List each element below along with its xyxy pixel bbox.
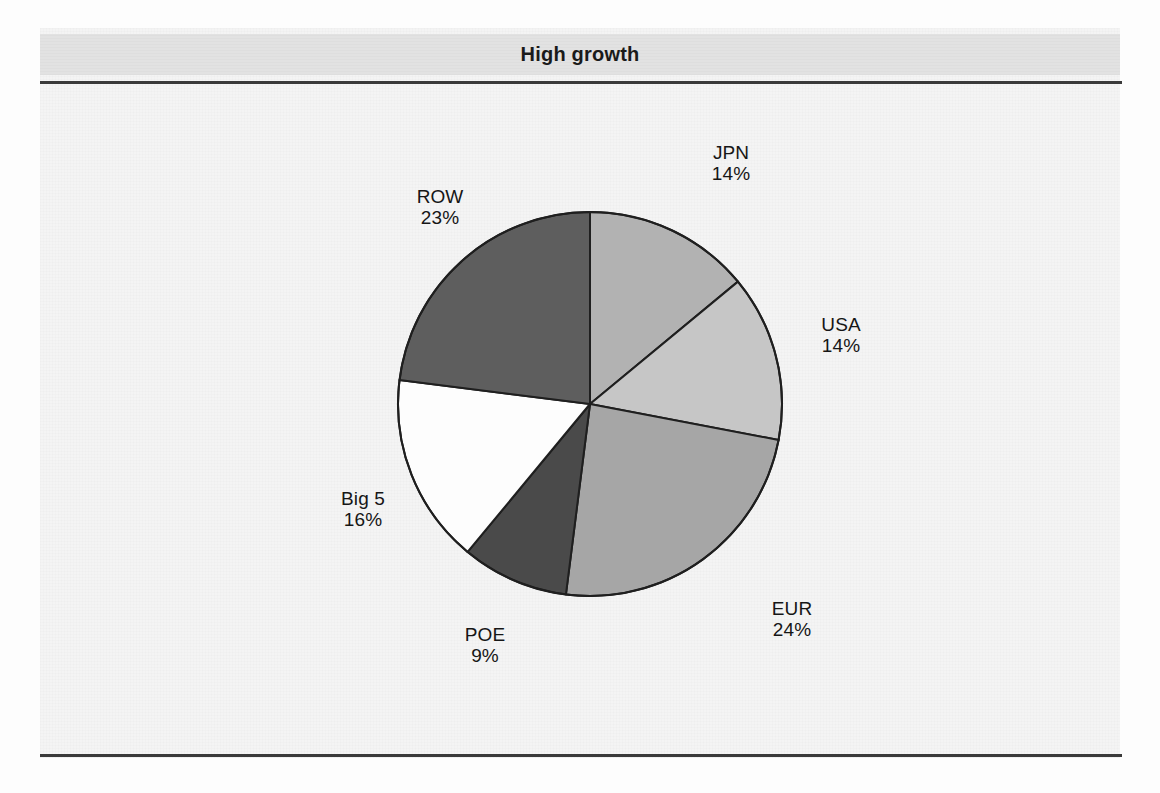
slice-label-jpn-name: JPN: [686, 142, 776, 163]
slice-label-row-value: 23%: [395, 207, 485, 228]
slice-label-poe-name: POE: [440, 624, 530, 645]
chart-page: High growth JPN 14% USA 14% EUR 24% POE …: [0, 0, 1160, 793]
pie-chart: JPN 14% USA 14% EUR 24% POE 9% Big 5 16%…: [40, 86, 1120, 752]
slice-label-eur-name: EUR: [747, 598, 837, 619]
slice-label-jpn-value: 14%: [686, 163, 776, 184]
slice-label-usa-name: USA: [796, 314, 886, 335]
divider-bottom: [40, 754, 1122, 757]
slice-label-poe-value: 9%: [440, 645, 530, 666]
slice-label-eur-value: 24%: [747, 619, 837, 640]
slice-label-big5-value: 16%: [318, 509, 408, 530]
slice-label-usa: USA 14%: [796, 314, 886, 357]
slice-label-big5: Big 5 16%: [318, 488, 408, 531]
divider-top: [40, 81, 1122, 84]
slice-label-usa-value: 14%: [796, 335, 886, 356]
slice-label-poe: POE 9%: [440, 624, 530, 667]
pie-slice-row: [400, 212, 590, 404]
page-title: High growth: [521, 43, 640, 66]
slice-label-row-name: ROW: [395, 186, 485, 207]
pie-chart-svg: [40, 86, 1120, 752]
slice-label-jpn: JPN 14%: [686, 142, 776, 185]
slice-label-big5-name: Big 5: [318, 488, 408, 509]
pie-slice-group: [398, 212, 782, 596]
slice-label-row: ROW 23%: [395, 186, 485, 229]
slice-label-eur: EUR 24%: [747, 598, 837, 641]
chart-title-band: High growth: [40, 34, 1120, 75]
